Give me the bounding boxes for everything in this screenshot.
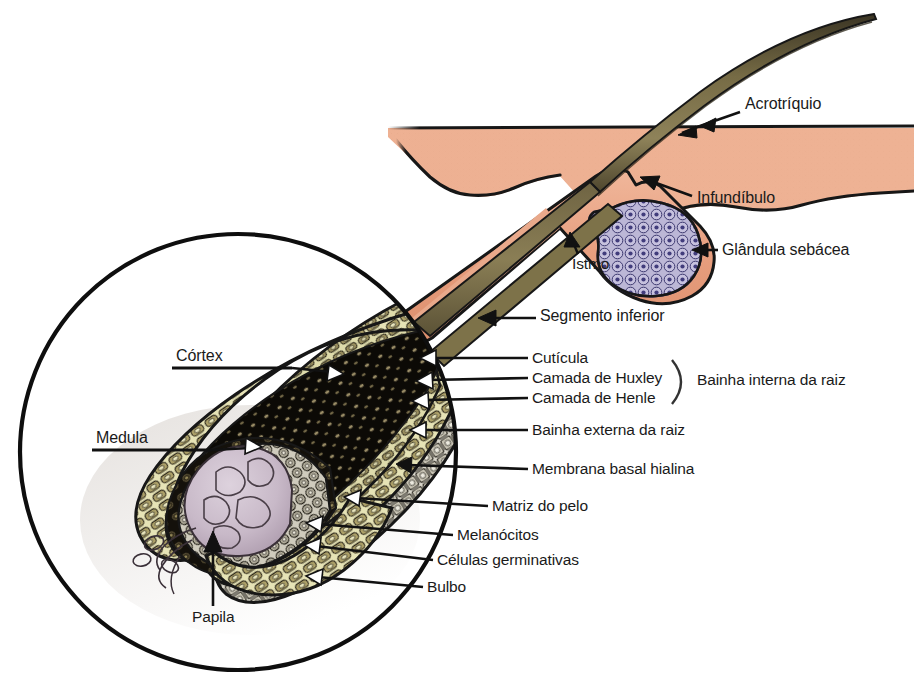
label-segmento-inferior: Segmento inferior <box>540 308 665 325</box>
label-papila: Papila <box>192 609 235 625</box>
label-bulbo: Bulbo <box>427 579 466 595</box>
label-membrana-basal: Membrana basal hialina <box>532 461 694 477</box>
figure-canvas: Acrotríquio Infundíbulo Glândula sebácea… <box>0 0 914 673</box>
label-melanocitos: Melanócitos <box>457 527 539 543</box>
label-camada-henle: Camada de Henle <box>532 390 655 406</box>
label-infundibulo: Infundíbulo <box>697 190 775 207</box>
label-matriz-pelo: Matriz do pelo <box>492 498 588 514</box>
label-cortex: Córtex <box>176 348 223 365</box>
label-istmo: Istmo <box>572 256 609 272</box>
label-celulas-germinativas: Células germinativas <box>437 552 579 568</box>
label-camada-huxley: Camada de Huxley <box>532 370 662 386</box>
label-cuticula: Cutícula <box>532 350 588 366</box>
label-acrotriquio: Acrotríquio <box>745 96 821 113</box>
label-medula: Medula <box>96 430 148 447</box>
label-bainha-externa: Bainha externa da raiz <box>532 422 685 438</box>
label-bainha-interna: Bainha interna da raiz <box>697 372 846 388</box>
label-glandula-sebacea: Glândula sebácea <box>722 242 849 259</box>
